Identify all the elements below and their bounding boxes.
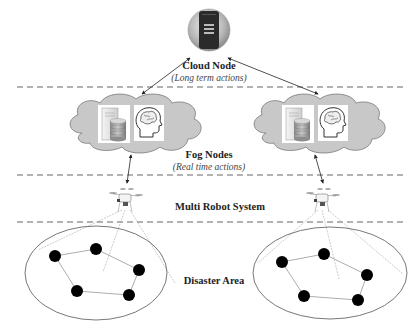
link-fog-drone-left — [127, 155, 131, 183]
fog-node-left — [70, 94, 201, 153]
fog-nodes-subtitle: (Real time actions) — [173, 162, 245, 173]
architecture-diagram: Cloud Node (Long term actions) Fog Nodes… — [0, 0, 419, 330]
fog-nodes-title: Fog Nodes — [186, 149, 233, 160]
disaster-area-left — [25, 210, 175, 320]
disaster-area-boundary — [25, 226, 167, 320]
cloud-node-title: Cloud Node — [182, 60, 236, 71]
fog-node-right — [254, 94, 385, 153]
cloud-node-subtitle: (Long term actions) — [171, 73, 246, 84]
robot-network-links — [282, 254, 367, 300]
disaster-area-boundary — [253, 227, 407, 319]
drone-icon — [306, 188, 340, 212]
disaster-area-right — [253, 210, 407, 319]
cloud-node: Cloud Node (Long term actions) — [171, 9, 246, 84]
robot-network-links — [55, 249, 139, 295]
link-fog-drone-right — [315, 155, 323, 183]
server-icon — [199, 11, 219, 49]
multi-robot-system-title: Multi Robot System — [175, 201, 265, 212]
drone-icon — [109, 188, 143, 212]
disaster-area-title: Disaster Area — [184, 275, 245, 286]
